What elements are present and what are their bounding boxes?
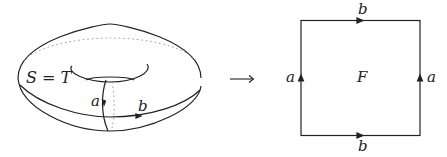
surface-label: S = T [26, 70, 71, 86]
loop-b-label: b [138, 99, 148, 114]
bottom-edge-label: b [358, 139, 368, 154]
map-arrow [230, 76, 254, 83]
right-edge-label: a [427, 70, 436, 85]
face-label: F [357, 70, 367, 85]
top-edge-label: b [358, 2, 368, 17]
arrowhead-icon [299, 75, 304, 81]
loop-a-label: a [91, 94, 100, 109]
arrowhead-icon [418, 75, 423, 81]
left-edge-label: a [286, 70, 295, 85]
arrowhead-icon [357, 18, 363, 23]
